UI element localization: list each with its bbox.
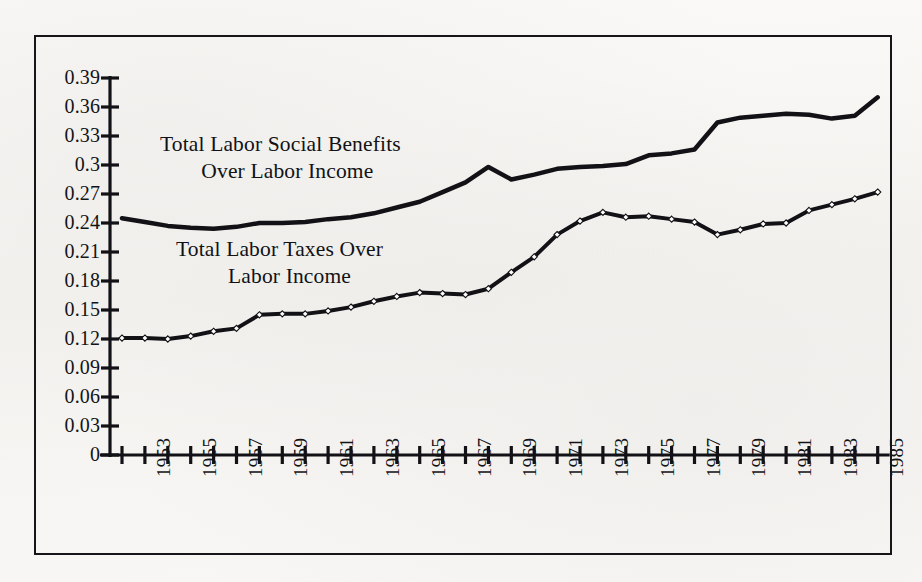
x-tick-label: 1965 (428, 438, 450, 477)
x-tick-label: 1967 (474, 438, 496, 477)
series-label-benefits-line2: Over Labor Income (160, 158, 401, 185)
x-tick-label: 1969 (519, 438, 541, 477)
x-tick-label: 1961 (336, 438, 358, 477)
x-tick-label: 1985 (886, 438, 908, 477)
series-label-taxes-line1: Total Labor Taxes Over (176, 237, 383, 261)
x-axis-tick-labels: 1953195519571959196119631965196719691971… (0, 0, 922, 582)
x-tick-label: 1957 (245, 438, 267, 477)
x-tick-label: 1977 (703, 438, 725, 477)
x-tick-label: 1963 (382, 438, 404, 477)
x-tick-label: 1971 (565, 438, 587, 477)
x-tick-label: 1975 (657, 438, 679, 477)
series-label-taxes-line2: Labor Income (176, 263, 383, 290)
x-tick-label: 1979 (748, 438, 770, 477)
x-tick-label: 1973 (611, 438, 633, 477)
x-tick-label: 1959 (290, 438, 312, 477)
x-tick-label: 1983 (840, 438, 862, 477)
x-tick-label: 1953 (153, 438, 175, 477)
series-label-benefits: Total Labor Social Benefits Over Labor I… (160, 131, 401, 185)
x-tick-label: 1981 (794, 438, 816, 477)
x-tick-label: 1955 (199, 438, 221, 477)
series-label-taxes: Total Labor Taxes Over Labor Income (176, 236, 383, 290)
series-label-benefits-line1: Total Labor Social Benefits (160, 132, 401, 156)
